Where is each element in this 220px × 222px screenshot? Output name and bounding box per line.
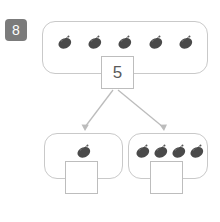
strawberry-icon [56, 34, 73, 50]
strawberry-icon [152, 143, 169, 159]
strawberry-icon [170, 143, 187, 159]
whole-group-items [43, 25, 207, 59]
question-number-badge: 8 [5, 19, 27, 41]
whole-number-box: 5 [101, 56, 134, 89]
arrow-to-left-part [85, 90, 113, 127]
strawberry-icon [75, 143, 92, 159]
answer-box-right[interactable] [150, 161, 183, 194]
arrow-head-left [82, 125, 89, 132]
arrow-to-right-part [118, 90, 163, 127]
answer-box-left[interactable] [65, 161, 98, 194]
worksheet-page: 8 [0, 0, 220, 222]
strawberry-icon [147, 34, 164, 50]
strawberry-icon [177, 34, 194, 50]
arrow-head-right [160, 124, 167, 131]
strawberry-icon [116, 34, 133, 50]
strawberry-icon [188, 143, 205, 159]
strawberry-icon [86, 34, 103, 50]
strawberry-icon [134, 143, 151, 159]
